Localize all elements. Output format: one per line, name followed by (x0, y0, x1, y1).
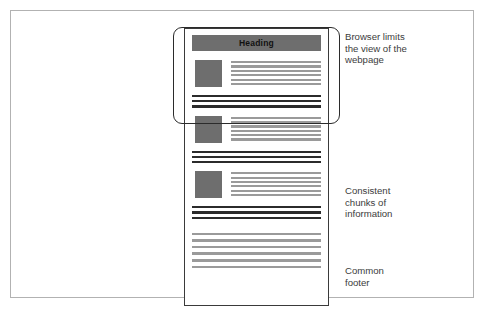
common-footer (192, 224, 321, 269)
text-line (231, 194, 321, 196)
separator-bar (192, 95, 321, 97)
chunk-body (192, 57, 321, 91)
webpage-content: Heading (185, 29, 328, 305)
footer-line (192, 252, 321, 255)
text-line (231, 70, 321, 72)
chunk-body (192, 168, 321, 202)
diagram-screenshot: Heading (0, 0, 485, 314)
text-line (231, 61, 321, 63)
separator-bar (192, 105, 321, 107)
separator-bar (192, 161, 321, 163)
separator-bar-group (192, 147, 321, 166)
content-chunk-1 (192, 57, 321, 110)
text-line (231, 190, 321, 192)
separator-bar (192, 156, 321, 158)
text-line (231, 130, 321, 132)
text-line-group (231, 171, 321, 196)
image-placeholder-icon (195, 116, 222, 143)
separator-bar (192, 206, 321, 208)
heading-bar: Heading (192, 35, 321, 51)
separator-bar (192, 100, 321, 102)
text-line-group (231, 60, 321, 85)
footer-line (192, 233, 321, 236)
webpage-column: Heading (184, 28, 329, 306)
text-line (231, 134, 321, 136)
content-chunk-3 (192, 168, 321, 221)
text-line (231, 138, 321, 140)
separator-bar (192, 217, 321, 219)
text-line (231, 181, 321, 183)
text-line (231, 121, 321, 123)
image-placeholder-icon (195, 171, 222, 198)
footer-line (192, 246, 321, 249)
annotation-consistent-chunks: Consistent chunks of information (345, 185, 392, 220)
text-line (231, 79, 321, 81)
annotation-common-footer: Common footer (345, 265, 384, 288)
footer-line (192, 266, 321, 269)
separator-bar (192, 211, 321, 213)
text-line (231, 125, 321, 127)
content-chunk-2 (192, 113, 321, 166)
separator-bar-group (192, 202, 321, 221)
text-line (231, 185, 321, 187)
text-line (231, 83, 321, 85)
text-line (231, 65, 321, 67)
separator-bar-group (192, 91, 321, 110)
annotation-browser-limits: Browser limits the view of the webpage (345, 31, 407, 66)
canvas-frame: Heading (10, 10, 474, 298)
separator-bar (192, 151, 321, 153)
text-line (231, 117, 321, 119)
heading-label: Heading (239, 38, 274, 48)
text-line-group (231, 116, 321, 141)
text-line (231, 172, 321, 174)
text-line (231, 74, 321, 76)
image-placeholder-icon (195, 60, 222, 87)
text-line (231, 177, 321, 179)
footer-line (192, 259, 321, 262)
footer-line (192, 239, 321, 242)
chunk-body (192, 113, 321, 147)
